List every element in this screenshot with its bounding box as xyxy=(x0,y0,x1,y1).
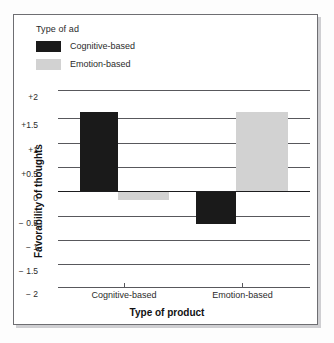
legend-item-cognitive-based: Cognitive-based xyxy=(36,38,135,54)
legend-label-emotion-based: Emotion-based xyxy=(70,59,131,69)
ytick-label-2: +2 xyxy=(4,92,38,102)
legend-item-emotion-based: Emotion-based xyxy=(36,56,135,72)
ytick-label-neg1_5: − 1.5 xyxy=(4,266,38,276)
gridline-2 xyxy=(58,90,310,91)
gridline-neg1 xyxy=(58,240,310,241)
x-axis-title: Type of product xyxy=(0,307,334,318)
bar-emotion-product-emotion-ad xyxy=(236,112,288,191)
xtick-label-emotion-based: Emotion-based xyxy=(186,290,299,300)
figure: Type of ad Cognitive-based Emotion-based… xyxy=(0,0,334,343)
xtick-label-cognitive-based: Cognitive-based xyxy=(64,290,184,300)
bar-cognitive-product-cognitive-ad xyxy=(80,112,118,191)
bar-cognitive-product-emotion-ad xyxy=(118,192,169,200)
ytick-label-neg2: − 2 xyxy=(4,289,38,299)
ytick-label-1_5: +1.5 xyxy=(4,120,38,130)
legend-swatch-cognitive-based xyxy=(36,41,61,52)
gridline-neg1_5 xyxy=(58,264,310,265)
legend-title: Type of ad xyxy=(36,24,135,34)
bar-emotion-product-cognitive-ad xyxy=(196,192,236,224)
xtick-cognitive-based xyxy=(124,283,125,287)
legend: Type of ad Cognitive-based Emotion-based xyxy=(36,24,135,74)
y-axis-title: Favorability of thoughts xyxy=(33,144,44,258)
legend-label-cognitive-based: Cognitive-based xyxy=(70,41,135,51)
plot-area: +2 +1.5 +1 +0.5 0 − 0.5 − 1 − 1.5 − 2 Co… xyxy=(58,90,310,287)
gridline-zero xyxy=(58,191,310,192)
gridline-neg2 xyxy=(58,287,310,288)
legend-swatch-emotion-based xyxy=(36,59,61,70)
xtick-emotion-based xyxy=(242,283,243,287)
gridline-neg0_5 xyxy=(58,216,310,217)
